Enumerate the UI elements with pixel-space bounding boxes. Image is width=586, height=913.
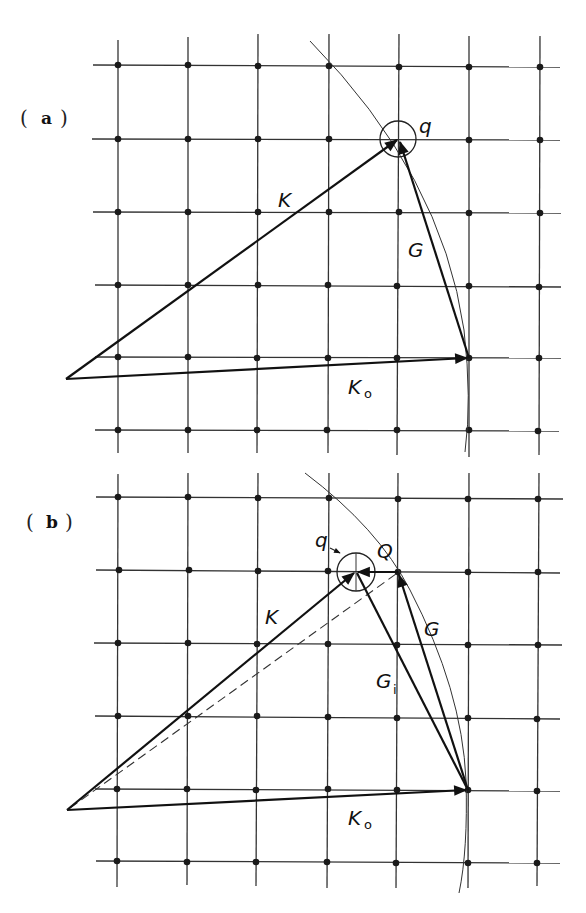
q-label-b: q: [315, 528, 328, 552]
panel-a: ( a ): [20, 34, 561, 457]
K0-label-a: K: [348, 375, 363, 399]
K0-vector-b: [67, 790, 466, 810]
reciprocal-lattice-grid-b: [94, 473, 563, 888]
panel-b-close-paren: ): [65, 510, 73, 534]
Q-label-b: Q: [377, 539, 393, 563]
diffraction-diagram: ( a ): [0, 0, 586, 913]
K-vector-b: [67, 573, 354, 810]
K0-subscript-a: o: [364, 386, 372, 401]
K0-vector-a: [66, 358, 467, 379]
K0-subscript-b: o: [364, 817, 372, 832]
q-label-a: q: [419, 114, 432, 138]
G-label-b: G: [424, 617, 440, 641]
K-label-a: K: [278, 188, 293, 212]
ewald-sphere-arc-a: [310, 41, 468, 452]
K-label-b: K: [265, 605, 280, 629]
K-vector-a: [66, 140, 397, 379]
Gi-subscript-b: i: [393, 682, 397, 697]
panel-a-label: a: [41, 108, 52, 128]
G-label-a: G: [408, 238, 424, 262]
panel-a-open-paren: (: [20, 106, 28, 130]
Gi-vector-b: [357, 573, 468, 790]
G-vector-b: [399, 575, 468, 790]
dashed-line-to-Q: [70, 574, 396, 808]
K0-label-b: K: [348, 806, 363, 830]
panel-b: ( b ): [26, 473, 563, 893]
panel-b-open-paren: (: [26, 510, 34, 534]
panel-b-label: b: [46, 512, 58, 532]
Gi-label-b: G: [376, 669, 392, 693]
reciprocal-lattice-grid-a: [92, 34, 561, 457]
panel-a-close-paren: ): [60, 106, 68, 130]
q-pointer-arrow: [330, 548, 340, 553]
